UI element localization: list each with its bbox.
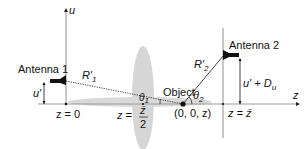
antenna-1-icon [50,75,66,85]
u-prime-label: u′ [33,87,42,99]
r1-label: R′1 [82,69,96,84]
zbar-dot [222,103,224,105]
zhalf-numerator: z̄ [139,104,146,116]
u-prime-arrowhead-icon [43,82,46,85]
antenna-2-icon [223,50,239,60]
r2-label: R′2 [194,58,209,73]
zhalf-denominator: 2 [140,118,146,130]
u-axis-label: u [69,4,75,16]
u-prime-du-arrowhead-icon [239,58,242,61]
antenna-geometry-diagram: u z Antenna 1 Antenna 2 R′1 R′2 u′ u′ + … [0,0,308,149]
zhalf-lhs-label: z = [116,109,133,121]
z0-label: z = 0 [56,108,80,120]
object-coords-label: (0, 0, z) [174,107,211,119]
origin-dot [65,103,68,106]
zbar-label: z = z̄ [227,107,252,119]
z-axis-label: z [292,89,299,101]
object-label: Object [163,86,195,98]
u-prime-du-label: u′ + Du [243,77,277,92]
u-axis-arrowhead-icon [64,8,68,12]
antenna-2-label: Antenna 2 [229,39,279,51]
antenna-1-label: Antenna 1 [18,63,68,75]
z-axis-arrowhead-icon [296,102,300,106]
object-point [180,101,185,106]
